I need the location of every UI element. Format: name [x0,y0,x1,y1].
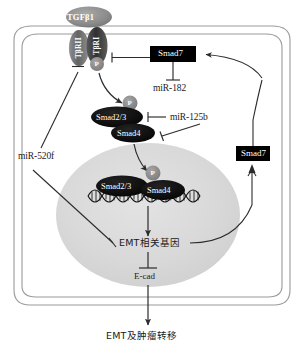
smad7-feedback-uplink [253,80,262,146]
mir520f-upper-line [41,67,84,149]
mir182-inhibits-smad7-arrow [166,62,180,80]
smad7-inhibits-receptor-arrow [112,53,150,63]
ecad-label: E-cad [134,272,155,281]
tbrii-label: TβRII [75,37,83,59]
smad23-phospho-label: P [128,100,132,107]
nuclear-smad23-label: Smad2/3 [101,182,131,191]
smad7-feedback-label: Smad7 [241,149,266,158]
smad7-label: Smad7 [158,49,183,58]
nuclear-smad4-label: Smad4 [147,186,171,195]
smad23-label: Smad2/3 [96,113,126,122]
mir520f-label: miR-520f [18,152,54,162]
tbri-label: TβRI [93,35,101,57]
receptor-activates-smad23-arrow [99,73,122,103]
smad7-feedback-arrow-top [206,55,262,79]
mir125b-label: miR-125b [170,113,208,123]
mir182-label: miR-182 [153,84,186,94]
smad4-label: Smad4 [117,129,141,138]
receptor-phospho-label: P [95,61,99,68]
mir125b-inhibits-smad23-arrow [148,112,166,122]
emt-gene-label: EMT相关基因 [119,238,180,248]
outcome-label: EMT及肿瘤转移 [106,331,178,341]
tgfb1-label: TGFβ1 [67,13,94,22]
pathway-diagram: TGFβ1 TβRII TβRI P Smad7 miR-182 P Smad2… [0,0,304,349]
mir125b-inhibits-smad4-arrow [160,124,200,141]
nuclear-smad23-phospho-label: P [151,170,155,177]
